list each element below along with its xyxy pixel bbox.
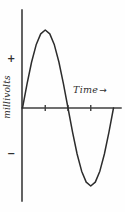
positive-polarity-marker: + [7, 54, 15, 64]
arrow-right-icon: → [98, 85, 107, 95]
x-axis-label-text: Time [73, 84, 98, 95]
waveform-plot [0, 0, 125, 212]
y-axis-label: millivolts [2, 71, 12, 123]
x-axis-label: Time→ [73, 84, 107, 95]
chart-figure: + − millivolts Time→ [0, 0, 125, 212]
negative-polarity-marker: − [7, 149, 15, 159]
